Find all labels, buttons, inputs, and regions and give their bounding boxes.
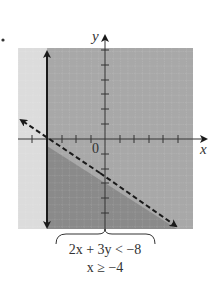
inequality-1: 2x + 3y < −8 (0, 242, 210, 258)
y-axis-label: y (90, 28, 99, 44)
x-axis-label: x (199, 141, 207, 157)
bullet-icon (1, 38, 4, 41)
inequality-2: x ≥ −4 (0, 260, 210, 276)
origin-label: 0 (92, 141, 99, 156)
